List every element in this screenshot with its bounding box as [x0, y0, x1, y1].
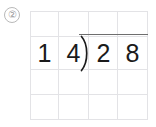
grid-cell	[89, 70, 118, 95]
grid-cell	[30, 70, 59, 95]
divisor-tens-digit: 1	[30, 37, 59, 70]
division-overline	[79, 34, 148, 35]
long-division-expression: 1 4 2 8	[30, 37, 148, 70]
grid-cell	[118, 70, 148, 95]
problem-number-marker: ②	[4, 7, 20, 23]
grid-cell	[118, 95, 148, 120]
dividend-ones-digit: 8	[118, 37, 147, 70]
dividend-tens-digit: 2	[89, 37, 118, 70]
grid-cell	[30, 11, 59, 37]
grid-cell	[89, 95, 118, 120]
grid-cell	[30, 95, 59, 120]
grid-cell	[59, 70, 89, 95]
grid-cell	[59, 95, 89, 120]
